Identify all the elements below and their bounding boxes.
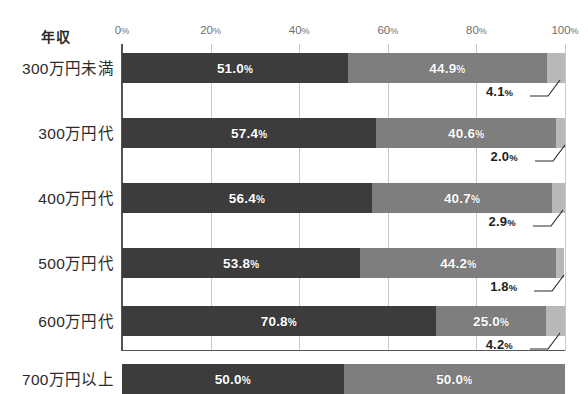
x-tick-percent-sign: % (213, 26, 221, 36)
y-axis-title: 年収 (0, 26, 112, 46)
x-tick-label-100: 100% (551, 24, 578, 36)
x-tick-number: 60 (377, 24, 390, 36)
bar-row: 300万円代57.4%40.6%2.0% (122, 118, 565, 148)
bar-segment-2: 50.0% (344, 364, 566, 394)
x-tick-label-40: 40% (289, 24, 310, 36)
segment-value-label: 53.8% (223, 256, 259, 271)
segment-value-label: 44.9% (429, 61, 465, 76)
category-label: 500万円代 (0, 251, 114, 273)
category-label: 300万円代 (0, 121, 114, 143)
x-tick-label-0: 0% (115, 24, 129, 36)
segment-value-label: 50.0% (215, 372, 251, 387)
x-tick-number: 20 (200, 24, 213, 36)
gridline-100 (565, 44, 566, 351)
bar-segment-3 (556, 248, 564, 278)
segment-value-label: 51.0% (217, 61, 253, 76)
x-tick-percent-sign: % (390, 26, 398, 36)
bar-row: 600万円代70.8%25.0%4.2% (122, 306, 565, 336)
chart-header: 年収 0%20%40%60%80%100% (0, 24, 588, 46)
segment-value-label: 40.7% (444, 191, 480, 206)
category-label: 300万円未満 (0, 56, 114, 78)
segment-value-label: 40.6% (448, 126, 484, 141)
segment-value-label: 50.0% (436, 372, 472, 387)
bar-segment-3 (552, 183, 565, 213)
segment-3-callout-label: 2.9% (489, 214, 516, 236)
x-tick-percent-sign: % (571, 26, 579, 36)
segment-value-label: 25.0% (473, 314, 509, 329)
bar-row: 400万円代56.4%40.7%2.9% (122, 183, 565, 213)
x-tick-label-80: 80% (466, 24, 487, 36)
segment-3-callout-label: 4.1% (486, 84, 513, 106)
segment-value-label: 44.2% (440, 256, 476, 271)
category-label: 400万円代 (0, 186, 114, 208)
category-label: 700万円以上 (0, 367, 114, 389)
bar-segment-2: 40.7% (372, 183, 552, 213)
x-tick-label-20: 20% (200, 24, 221, 36)
bar-segment-2: 44.9% (348, 53, 547, 83)
x-tick-number: 40 (289, 24, 302, 36)
x-tick-percent-sign: % (479, 26, 487, 36)
x-tick-number: 80 (466, 24, 479, 36)
bar-segment-2: 40.6% (376, 118, 556, 148)
x-tick-label-60: 60% (377, 24, 398, 36)
bar-segment-3 (556, 118, 565, 148)
x-tick-percent-sign: % (302, 26, 310, 36)
x-tick-percent-sign: % (121, 26, 129, 36)
plot-area: 300万円未満51.0%44.9%4.1%300万円代57.4%40.6%2.0… (122, 44, 565, 351)
segment-value-label: 57.4% (231, 126, 267, 141)
bar-segment-1: 50.0% (122, 364, 344, 394)
bar-segment-2: 25.0% (436, 306, 547, 336)
bar-segment-1: 56.4% (122, 183, 372, 213)
bar-segment-1: 57.4% (122, 118, 376, 148)
bar-row: 700万円以上50.0%50.0% (122, 364, 565, 394)
segment-3-callout-label: 1.8% (490, 279, 517, 301)
segment-3-callout-label: 4.2% (486, 337, 513, 359)
bar-segment-1: 51.0% (122, 53, 348, 83)
segment-value-label: 70.8% (261, 314, 297, 329)
bar-row: 300万円未満51.0%44.9%4.1% (122, 53, 565, 83)
bar-segment-3 (546, 306, 565, 336)
segment-3-callout-label: 2.0% (491, 149, 518, 171)
bar-segment-1: 53.8% (122, 248, 360, 278)
category-label: 600万円代 (0, 309, 114, 331)
bar-segment-1: 70.8% (122, 306, 436, 336)
bar-segment-2: 44.2% (360, 248, 556, 278)
bar-segment-3 (547, 53, 565, 83)
bar-row: 500万円代53.8%44.2%1.8% (122, 248, 565, 278)
segment-value-label: 56.4% (229, 191, 265, 206)
x-tick-number: 100 (551, 24, 570, 36)
